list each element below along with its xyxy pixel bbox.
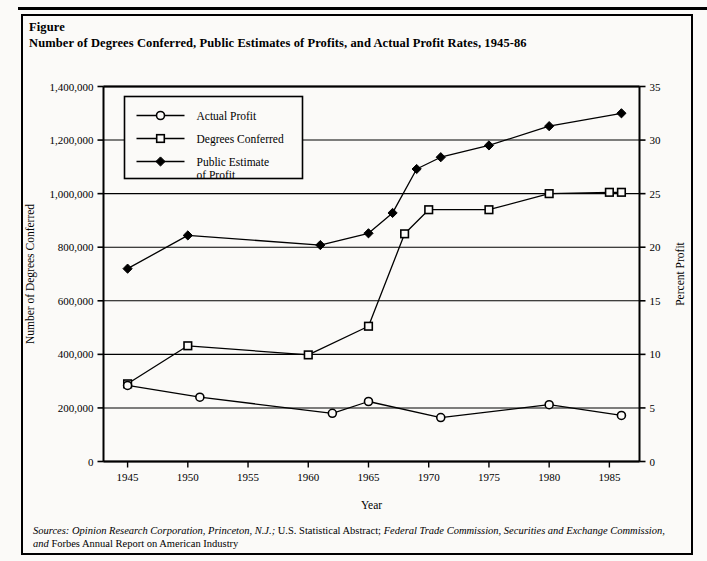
data-point-marker xyxy=(123,264,132,273)
data-point-marker xyxy=(485,206,493,214)
y-tick-label-left: 1,000,000 xyxy=(50,188,95,200)
sources-part2: U.S. Statistical Abstract; xyxy=(275,525,381,536)
y-tick-label-left: 0 xyxy=(88,456,94,468)
data-point-marker xyxy=(606,189,614,197)
figure-page: Figure Number of Degrees Conferred, Publ… xyxy=(0,0,707,561)
chart-legend: Actual ProfitDegrees ConferredPublic Est… xyxy=(125,97,303,181)
data-point-marker xyxy=(545,190,553,198)
data-point-marker xyxy=(617,411,625,419)
data-point-marker xyxy=(184,342,192,350)
data-point-marker xyxy=(183,231,192,240)
data-point-marker xyxy=(617,109,626,118)
y-tick-label-right: 25 xyxy=(650,188,662,200)
y-tick-label-right: 5 xyxy=(650,402,656,414)
series-degrees-conferred xyxy=(124,189,625,388)
y-tick-label-right: 35 xyxy=(650,81,662,93)
chart-canvas: 0200,000400,000600,000800,0001,000,0001,… xyxy=(0,0,707,561)
series-line xyxy=(128,192,622,384)
series-actual-profit xyxy=(124,381,626,421)
legend-marker-open-circle xyxy=(157,112,165,120)
data-point-marker xyxy=(364,398,372,406)
x-tick-label: 1965 xyxy=(357,471,380,483)
x-tick-label: 1975 xyxy=(478,471,501,483)
data-point-marker xyxy=(437,414,445,422)
data-point-marker xyxy=(304,351,312,359)
data-point-marker xyxy=(618,189,626,197)
sources-part4: and xyxy=(33,538,49,549)
y-axis-right: 05101520253035 xyxy=(640,81,662,468)
x-tick-label: 1955 xyxy=(237,471,260,483)
legend-label: Actual Profit xyxy=(197,110,258,122)
y-tick-label-right: 15 xyxy=(650,295,662,307)
y-axis-title-left: Number of Degrees Conferred xyxy=(24,204,37,344)
y-tick-label-right: 10 xyxy=(650,348,662,360)
x-axis: 194519501955196019651970197519801985 xyxy=(117,462,621,483)
data-point-marker xyxy=(412,164,421,173)
x-tick-label: 1960 xyxy=(297,471,320,483)
y-tick-label-right: 30 xyxy=(650,134,662,146)
y-tick-label-left: 400,000 xyxy=(58,348,94,360)
y-tick-label-left: 200,000 xyxy=(58,402,94,414)
data-point-marker xyxy=(425,206,433,214)
data-point-marker xyxy=(328,409,336,417)
data-point-marker xyxy=(316,240,325,249)
data-point-marker xyxy=(124,381,132,389)
legend-label: of Profit xyxy=(197,169,236,181)
y-axis-left: 0200,000400,000600,000800,0001,000,0001,… xyxy=(50,81,104,468)
data-point-marker xyxy=(545,401,553,409)
x-axis-title: Year xyxy=(361,499,382,511)
y-axis-title-right: Percent Profit xyxy=(674,241,686,305)
x-tick-label: 1945 xyxy=(117,471,140,483)
legend-label: Degrees Conferred xyxy=(197,133,284,146)
data-point-marker xyxy=(484,141,493,150)
legend-label: Public Estimate xyxy=(197,156,270,168)
data-point-marker xyxy=(196,393,204,401)
y-tick-label-left: 1,400,000 xyxy=(50,81,95,93)
sources-part5: Forbes Annual Report on American Industr… xyxy=(49,538,239,549)
sources-part1: Opinion Research Corporation, Princeton,… xyxy=(69,525,275,536)
x-tick-label: 1950 xyxy=(177,471,200,483)
sources-prefix: Sources: xyxy=(33,525,69,536)
y-tick-label-left: 600,000 xyxy=(58,295,94,307)
y-tick-label-right: 0 xyxy=(650,456,656,468)
x-tick-label: 1980 xyxy=(538,471,561,483)
y-tick-label-left: 1,200,000 xyxy=(50,134,95,146)
data-point-marker xyxy=(436,153,445,162)
data-point-marker xyxy=(545,122,554,131)
data-point-marker xyxy=(365,322,373,330)
x-tick-label: 1970 xyxy=(418,471,441,483)
legend-marker-open-square xyxy=(157,135,165,143)
sources-part3: Federal Trade Commission, Securities and… xyxy=(381,525,665,536)
data-point-marker xyxy=(401,230,409,238)
y-tick-label-left: 800,000 xyxy=(58,241,94,253)
sources-note: Sources: Opinion Research Corporation, P… xyxy=(33,524,673,550)
x-tick-label: 1985 xyxy=(598,471,621,483)
y-tick-label-right: 20 xyxy=(650,241,662,253)
